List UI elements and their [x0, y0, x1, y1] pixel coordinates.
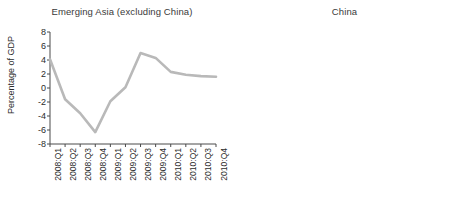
figure-container: Emerging Asia (excluding China) Percenta…: [0, 0, 451, 208]
x-axis-tick-label: 2008:Q4: [99, 148, 108, 181]
y-axis-tick-label: 4: [41, 56, 46, 65]
y-axis-tick-label: -8: [38, 140, 46, 149]
chart-panel-emerging-asia: Emerging Asia (excluding China) Percenta…: [0, 0, 228, 208]
panel-title-china: China: [228, 6, 451, 17]
x-axis-tick-label: 2010:Q3: [204, 148, 213, 181]
y-axis-tick-label: -2: [38, 98, 46, 107]
x-axis-tick-label: 2009:Q1: [114, 148, 123, 181]
y-axis-tick-label: -6: [38, 126, 46, 135]
x-axis-tick-label: 2009:Q4: [159, 148, 168, 181]
y-axis-tick-label: -4: [38, 112, 46, 121]
y-axis-tick-label: 8: [41, 28, 46, 37]
data-series-line: [50, 53, 216, 132]
panel-title-emerging-asia: Emerging Asia (excluding China): [0, 6, 228, 17]
y-axis-tick-labels-left: 86420-2-4-6-8: [26, 32, 46, 144]
x-axis-tick-label: 2010:Q1: [174, 148, 183, 181]
x-axis-tick-label: 2010:Q2: [189, 148, 198, 181]
plot-area-emerging-asia: [50, 32, 216, 144]
y-axis-tick-label: 6: [41, 42, 46, 51]
line-chart-svg-emerging-asia: [50, 32, 216, 144]
x-axis-tick-labels-left: 2008:Q12008:Q22008:Q32008:Q42009:Q12009:…: [50, 148, 216, 206]
y-axis-tick-label: 0: [41, 84, 46, 93]
x-axis-tick-label: 2009:Q3: [144, 148, 153, 181]
x-axis-tick-label: 2008:Q3: [84, 148, 93, 181]
y-axis-label-left: Percentage of GDP: [4, 0, 18, 150]
y-axis-tick-label: 2: [41, 70, 46, 79]
chart-panel-china: China 86420-2-4-6-8 2007:H12007:H22008:H…: [228, 0, 451, 208]
y-axis-label-left-text: Percentage of GDP: [6, 36, 16, 114]
x-axis-tick-label: 2010:Q4: [220, 148, 229, 181]
x-axis-tick-label: 2008:Q1: [54, 148, 63, 181]
x-axis-tick-label: 2008:Q2: [69, 148, 78, 181]
x-axis-tick-label: 2009:Q2: [129, 148, 138, 181]
